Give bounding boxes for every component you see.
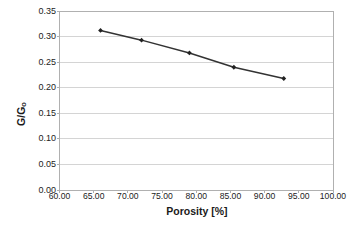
data-point-marker <box>281 76 286 81</box>
series-polyline <box>101 30 284 78</box>
data-point-marker <box>231 65 236 70</box>
data-series-line <box>101 30 284 78</box>
data-point-marker <box>139 38 144 43</box>
chart-container: G/Go 0.000.050.100.150.200.250.300.35 60… <box>0 0 362 237</box>
data-point-marker <box>98 28 103 33</box>
axis-lines <box>57 11 334 193</box>
plot-area <box>0 0 362 237</box>
grid-lines <box>60 11 334 164</box>
data-point-marker <box>187 51 192 56</box>
